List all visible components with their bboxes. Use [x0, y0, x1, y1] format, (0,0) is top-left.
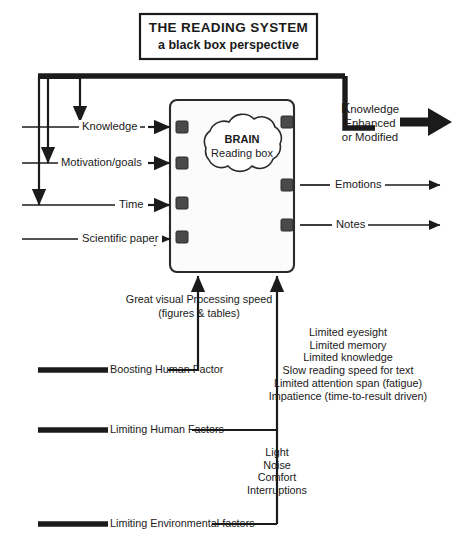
output-label-knowledge-enhanced: Knowledge Enhanced or Modified — [336, 100, 404, 145]
input-label-time: Time — [116, 198, 146, 211]
limiting-env-item: Light — [217, 446, 337, 459]
input-label-motivation: Motivation/goals — [58, 156, 145, 169]
limiting-env-item: Noise — [217, 459, 337, 472]
limiting-human-item: Limited eyesight — [228, 326, 457, 339]
limiting-human-item: Limited memory — [228, 339, 457, 352]
output-label-capital-k: K — [341, 100, 350, 116]
output-label-line1-rest: nowledge — [350, 103, 399, 115]
output-label-line3: or Modified — [336, 131, 404, 145]
limiting-human-items-list: Limited eyesight Limited memory Limited … — [228, 326, 457, 402]
output-label-notes: Notes — [333, 218, 368, 231]
output-label-line2: Enhanced — [336, 117, 404, 131]
box-port-right-3 — [281, 219, 293, 231]
limiting-env-item: Comfort — [217, 471, 337, 484]
box-port-right-2 — [281, 179, 293, 191]
page-title: THE READING SYSTEM — [140, 20, 317, 36]
boosting-factor-label: Boosting Human Factor — [110, 363, 223, 376]
input-label-knowledge: Knowledge — [79, 120, 140, 133]
output-primary-arrowhead — [428, 108, 452, 136]
brain-cloud-title: BRAIN — [206, 133, 278, 146]
box-port-left-1 — [176, 121, 188, 133]
brain-cloud-subtitle: Reading box — [202, 147, 282, 160]
limiting-env-items-list: Light Noise Comfort Interruptions — [217, 446, 337, 497]
box-port-left-2 — [176, 157, 188, 169]
box-port-left-3 — [176, 197, 188, 209]
limiting-human-item: Slow reading speed for text — [228, 364, 457, 377]
boosting-note-line2: (figures & tables) — [110, 307, 288, 320]
limiting-env-item: Interruptions — [217, 484, 337, 497]
output-label-emotions: Emotions — [332, 178, 385, 191]
box-port-left-4 — [176, 231, 188, 243]
limiting-human-item: Impatience (time-to-result driven) — [228, 390, 457, 403]
limiting-human-factor-label: Limiting Human Factors — [110, 423, 224, 436]
box-port-right-1 — [281, 116, 293, 128]
input-label-scientific-paper: Scientific paper — [79, 232, 162, 245]
limiting-env-factor-label: Limiting Environmental factors — [110, 517, 255, 530]
output-label-line1: Knowledge — [336, 100, 404, 117]
boosting-note-line1: Great visual Processing speed — [110, 293, 288, 306]
limiting-human-item: Limited knowledge — [228, 351, 457, 364]
page-subtitle: a black box perspective — [140, 38, 317, 53]
reading-system-diagram: THE READING SYSTEM a black box perspecti… — [0, 0, 457, 549]
limiting-human-item: Limited attention span (fatigue) — [228, 377, 457, 390]
